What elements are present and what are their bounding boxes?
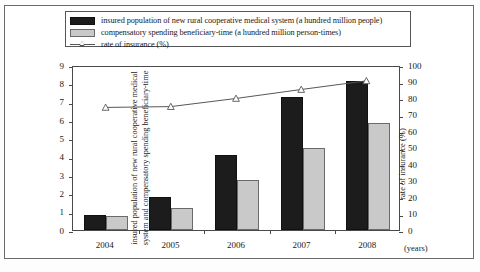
- left-tick-8: [69, 85, 73, 86]
- x-tick-label-2006: 2006: [206, 241, 266, 250]
- right-tick-label-60: 60: [408, 128, 432, 137]
- left-tick-label-3: 3: [44, 172, 64, 181]
- left-tick-3: [69, 177, 73, 178]
- left-tick-2: [69, 195, 73, 196]
- left-tick-0: [69, 232, 73, 233]
- right-tick-0: [399, 232, 403, 233]
- right-tick-label-50: 50: [408, 144, 432, 153]
- left-tick-label-8: 8: [44, 80, 64, 89]
- x-tick-label-2008: 2008: [337, 241, 397, 250]
- left-tick-9: [69, 67, 73, 68]
- right-tick-label-40: 40: [408, 161, 432, 170]
- figure-caption-cutoff: [6, 264, 306, 272]
- right-tick-100: [399, 67, 403, 68]
- x-axis-unit-label: (years): [404, 243, 428, 253]
- left-tick-5: [69, 140, 73, 141]
- left-tick-label-7: 7: [44, 98, 64, 107]
- left-tick-4: [69, 159, 73, 160]
- left-tick-label-6: 6: [44, 117, 64, 126]
- left-tick-1: [69, 214, 73, 215]
- left-axis-title: insured population of new rural cooperat…: [129, 63, 151, 253]
- left-tick-label-9: 9: [44, 62, 64, 71]
- x-tick-label-2007: 2007: [272, 241, 332, 250]
- x-tick-label-2004: 2004: [75, 241, 135, 250]
- right-tick-80: [399, 100, 403, 101]
- bottom-tick-4: [335, 230, 336, 234]
- left-tick-label-4: 4: [44, 153, 64, 162]
- right-tick-label-20: 20: [408, 194, 432, 203]
- line-series-layer: [73, 67, 399, 230]
- plot-area: insured population of new rural cooperat…: [72, 66, 400, 231]
- left-tick-6: [69, 122, 73, 123]
- right-axis-title: rate of insurance (%): [397, 104, 407, 224]
- left-tick-label-5: 5: [44, 135, 64, 144]
- x-tick-label-2005: 2005: [140, 241, 200, 250]
- right-tick-label-90: 90: [408, 78, 432, 87]
- chart-page: insured population of new rural cooperat…: [0, 0, 480, 272]
- right-tick-label-0: 0: [408, 227, 432, 236]
- right-tick-label-70: 70: [408, 111, 432, 120]
- right-tick-90: [399, 84, 403, 85]
- line-marker-2008: [363, 77, 370, 83]
- right-tick-label-30: 30: [408, 177, 432, 186]
- right-tick-label-10: 10: [408, 210, 432, 219]
- left-tick-label-0: 0: [44, 227, 64, 236]
- left-tick-label-1: 1: [44, 208, 64, 217]
- plot-wrapper: insured population of new rural cooperat…: [0, 0, 480, 272]
- right-tick-label-80: 80: [408, 95, 432, 104]
- bottom-tick-3: [270, 230, 271, 234]
- left-tick-label-2: 2: [44, 190, 64, 199]
- left-tick-7: [69, 104, 73, 105]
- bottom-tick-2: [204, 230, 205, 234]
- right-tick-label-100: 100: [408, 62, 432, 71]
